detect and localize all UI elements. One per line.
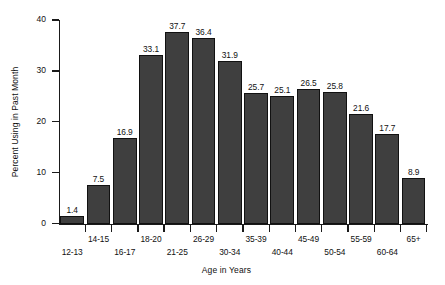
y-tick-label-20: 20 <box>16 116 46 126</box>
bar-16-17 <box>113 138 137 224</box>
bar-value-label-40-44: 25.1 <box>268 85 296 95</box>
x-tick-1 <box>85 224 86 232</box>
bar-value-label-12-13: 1.4 <box>58 205 86 215</box>
bar-12-13 <box>60 216 84 223</box>
x-tick-13 <box>400 224 401 232</box>
x-tick-3 <box>137 224 138 232</box>
category-label-50-54: 50-54 <box>317 247 353 257</box>
x-tick-2 <box>111 224 112 232</box>
x-tick-6 <box>216 224 217 232</box>
bar-60-64 <box>375 134 399 224</box>
bar-value-label-65+: 8.9 <box>400 167 428 177</box>
y-tick-label-10: 10 <box>16 167 46 177</box>
bar-value-label-18-20: 33.1 <box>137 44 165 54</box>
category-label-45-49: 45-49 <box>291 234 327 244</box>
bar-value-label-14-15: 7.5 <box>84 174 112 184</box>
category-label-65+: 65+ <box>396 234 432 244</box>
x-axis-title-wrap: Age in Years <box>0 265 445 275</box>
category-label-26-29: 26-29 <box>186 234 222 244</box>
x-tick-11 <box>347 224 348 232</box>
bar-21-25 <box>165 32 189 224</box>
bar-value-label-30-34: 31.9 <box>216 50 244 60</box>
x-tick-14 <box>426 224 427 232</box>
bar-value-label-21-25: 37.7 <box>163 21 191 31</box>
bar-45-49 <box>297 89 321 224</box>
bar-50-54 <box>323 92 347 223</box>
bar-chart: Percent Using in Past Month 010203040 1.… <box>0 0 445 285</box>
y-tick-40 <box>52 19 59 20</box>
category-label-12-13: 12-13 <box>54 247 90 257</box>
bar-value-label-50-54: 25.8 <box>321 81 349 91</box>
bar-value-label-55-59: 21.6 <box>347 103 375 113</box>
bar-value-label-45-49: 26.5 <box>295 78 323 88</box>
category-label-14-15: 14-15 <box>80 234 116 244</box>
bar-14-15 <box>87 185 111 223</box>
bar-26-29 <box>192 38 216 223</box>
y-tick-10 <box>52 172 59 173</box>
bar-40-44 <box>270 96 294 224</box>
bar-value-label-60-64: 17.7 <box>373 123 401 133</box>
x-tick-10 <box>321 224 322 232</box>
x-tick-5 <box>190 224 191 232</box>
category-label-55-59: 55-59 <box>343 234 379 244</box>
category-label-60-64: 60-64 <box>369 247 405 257</box>
y-tick-20 <box>52 121 59 122</box>
category-label-30-34: 30-34 <box>212 247 248 257</box>
bar-55-59 <box>349 114 373 224</box>
y-tick-label-40: 40 <box>16 14 46 24</box>
bar-value-label-26-29: 36.4 <box>190 27 218 37</box>
bar-30-34 <box>218 61 242 223</box>
category-label-21-25: 21-25 <box>159 247 195 257</box>
y-axis-line <box>59 20 60 225</box>
bar-value-label-35-39: 25.7 <box>242 82 270 92</box>
bar-65+ <box>402 178 426 223</box>
category-label-18-20: 18-20 <box>133 234 169 244</box>
x-tick-8 <box>269 224 270 232</box>
x-tick-4 <box>163 224 164 232</box>
y-tick-label-0: 0 <box>16 218 46 228</box>
x-tick-9 <box>295 224 296 232</box>
x-axis-title: Age in Years <box>202 265 252 275</box>
category-label-35-39: 35-39 <box>238 234 274 244</box>
category-label-40-44: 40-44 <box>264 247 300 257</box>
x-tick-7 <box>242 224 243 232</box>
y-tick-0 <box>52 223 59 224</box>
x-tick-12 <box>374 224 375 232</box>
bar-18-20 <box>139 55 163 223</box>
y-tick-30 <box>52 70 59 71</box>
category-label-16-17: 16-17 <box>107 247 143 257</box>
y-tick-label-30: 30 <box>16 65 46 75</box>
bar-value-label-16-17: 16.9 <box>111 127 139 137</box>
bar-35-39 <box>244 93 268 224</box>
